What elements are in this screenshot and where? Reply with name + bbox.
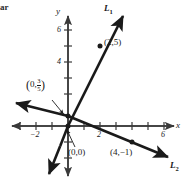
y-axis-label: y — [56, 7, 60, 16]
x-axis-label: x — [176, 121, 180, 130]
x-tick-label--2: −2 — [30, 131, 39, 139]
fraction-denominator: 5 — [37, 85, 40, 93]
x-tick-label-6: 6 — [161, 131, 165, 139]
point-label-0-three-fifths: (0,35) — [26, 78, 45, 93]
line-label-L2-sub: 2 — [176, 165, 179, 172]
fraction-three-fifths: 35 — [37, 78, 40, 93]
line-label-L1-sub: 1 — [110, 8, 113, 15]
y-tick-label-4: 4 — [57, 58, 61, 66]
point-label-0-0: (0,0) — [68, 148, 85, 157]
point-label-4-neg1: (4,−1) — [110, 148, 132, 157]
line-label-L1: L1 — [104, 4, 113, 15]
paren-close: ) — [41, 78, 45, 92]
fraction-x-part: 0, — [30, 79, 37, 89]
x-tick-label-2: 2 — [97, 131, 101, 139]
line-label-L2: L2 — [170, 161, 179, 172]
y-tick-label-6: 6 — [57, 26, 61, 34]
point-label-2-5: (2,5) — [104, 38, 121, 47]
coordinate-graph-figure: ar — [0, 0, 186, 179]
fraction-numerator: 3 — [37, 78, 40, 85]
